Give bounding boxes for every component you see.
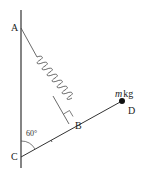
mass-unit: kg — [123, 88, 133, 99]
label-C: C — [11, 151, 18, 162]
mass-symbol: m — [115, 88, 122, 99]
spring — [37, 56, 72, 99]
label-A: A — [11, 22, 19, 33]
string-upper — [21, 28, 37, 57]
angle-label: 60° — [26, 129, 37, 138]
physics-diagram: A B C D mkg 60° — [0, 0, 160, 175]
mass-label: mkg — [115, 88, 133, 99]
angle-arc — [21, 141, 35, 149]
right-angle-marker — [64, 111, 74, 117]
label-D: D — [128, 105, 135, 116]
string-lower — [53, 96, 69, 124]
label-B: B — [75, 120, 82, 131]
